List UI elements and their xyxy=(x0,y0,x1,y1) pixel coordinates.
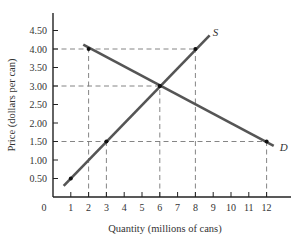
x-tick-label: 8 xyxy=(193,202,198,213)
x-tick-label: 11 xyxy=(244,202,254,213)
y-tick-label: 1.50 xyxy=(30,136,48,147)
y-tick-label: 4.00 xyxy=(30,44,48,55)
x-tick-label: 3 xyxy=(104,202,109,213)
x-tick-label: 12 xyxy=(262,202,272,213)
y-axis-title: Price (dollars per can) xyxy=(6,58,18,152)
supply-demand-chart: 0.501.001.502.002.503.003.504.004.50 123… xyxy=(0,0,299,237)
data-point xyxy=(265,140,269,144)
x-tick-label: 7 xyxy=(175,202,180,213)
y-tick-label: 0.50 xyxy=(30,173,48,184)
demand-label: D xyxy=(279,141,288,153)
data-point xyxy=(193,47,197,51)
supply-curve xyxy=(64,35,210,186)
y-tick-label: 2.50 xyxy=(30,99,48,110)
x-tick-label: 4 xyxy=(122,202,127,213)
y-tick-label: 4.50 xyxy=(30,25,48,36)
x-axis-title: Quantity (millions of cans) xyxy=(108,223,222,235)
x-axis-ticks: 123456789101112 xyxy=(68,192,271,213)
demand-curve xyxy=(83,45,273,146)
data-point xyxy=(104,140,108,144)
x-tick-label: 1 xyxy=(68,202,73,213)
origin-label: 0 xyxy=(42,202,47,213)
y-tick-label: 2.00 xyxy=(30,118,48,129)
y-axis-ticks: 0.501.001.502.002.503.003.504.004.50 xyxy=(30,25,59,184)
x-tick-label: 2 xyxy=(86,202,91,213)
y-tick-label: 3.00 xyxy=(30,81,48,92)
supply-label: S xyxy=(213,26,219,38)
data-point xyxy=(87,47,91,51)
y-tick-label: 3.50 xyxy=(30,62,48,73)
curves: SD xyxy=(64,26,288,186)
x-tick-label: 5 xyxy=(140,202,145,213)
y-tick-label: 1.00 xyxy=(30,155,48,166)
data-points xyxy=(69,47,269,181)
reference-lines xyxy=(53,49,267,197)
x-tick-label: 6 xyxy=(157,202,162,213)
x-tick-label: 9 xyxy=(211,202,216,213)
data-point xyxy=(69,177,73,181)
data-point xyxy=(158,84,162,88)
x-tick-label: 10 xyxy=(226,202,236,213)
